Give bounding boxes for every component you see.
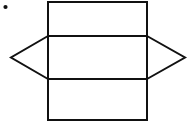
right-triangle: [147, 36, 185, 79]
main-rectangle: [48, 2, 147, 120]
figure-svg: [0, 0, 193, 128]
corner-dot-icon: [3, 5, 7, 9]
left-triangle: [11, 36, 48, 79]
figure-canvas: [0, 0, 193, 128]
